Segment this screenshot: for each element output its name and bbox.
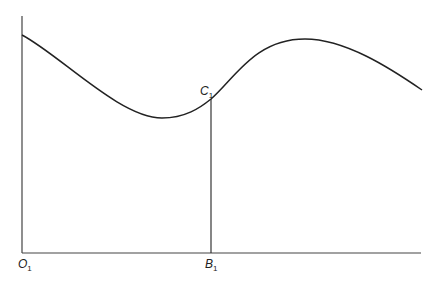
foot-b1-label: B1 — [205, 257, 218, 273]
diagram-figure: O1 C1 B1 — [0, 0, 442, 284]
origin-label: O1 — [18, 257, 32, 273]
curve — [22, 35, 422, 118]
point-c1-label: C1 — [200, 84, 214, 100]
